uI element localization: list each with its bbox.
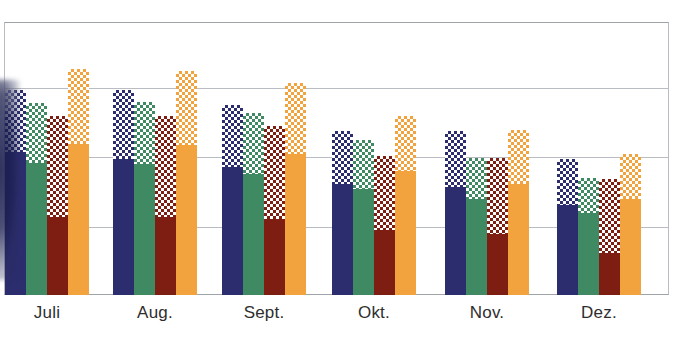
category-label-sept: Sept. — [204, 303, 324, 323]
plot-area — [4, 22, 669, 295]
category-labels: JuliAug.Sept.Okt.Nov.Dez. — [0, 303, 692, 343]
category-label-aug: Aug. — [95, 303, 215, 323]
category-label-okt: Okt. — [314, 303, 434, 323]
category-label-juli: Juli — [0, 303, 107, 323]
bar-chart: JuliAug.Sept.Okt.Nov.Dez. — [0, 0, 692, 350]
gridline-1 — [5, 88, 668, 89]
gridline-3 — [5, 227, 668, 228]
category-label-nov: Nov. — [427, 303, 547, 323]
gridline-2 — [5, 157, 668, 158]
category-label-dez: Dez. — [539, 303, 659, 323]
